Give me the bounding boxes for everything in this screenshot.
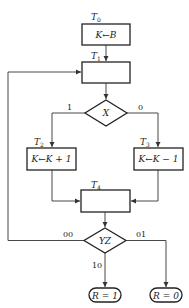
svg-text:T1: T1 [91, 51, 101, 62]
svg-text:T0: T0 [91, 12, 101, 23]
yz-branch-00: 00 [63, 230, 73, 239]
state-t2: T2 K←K + 1 [27, 137, 76, 170]
svg-text:R = 0: R = 0 [152, 291, 179, 301]
t3-action: K←K − 1 [138, 154, 179, 164]
x-branch-1: 1 [67, 103, 72, 112]
output-r0: R = 0 [150, 288, 182, 302]
decision-yz: YZ [84, 228, 126, 253]
svg-text:T3: T3 [140, 137, 150, 148]
yz-branch-01: 01 [136, 230, 146, 239]
decision-x: X [85, 100, 127, 126]
state-t3: T3 K←K − 1 [134, 137, 183, 170]
svg-text:X: X [102, 108, 110, 118]
state-t4: T4 [81, 180, 130, 212]
t0-action: K←B [95, 30, 117, 40]
state-t0: T0 K←B [82, 12, 130, 45]
svg-text:YZ: YZ [99, 236, 112, 246]
x-branch-0: 0 [138, 103, 143, 112]
yz-branch-10: 10 [92, 261, 102, 270]
svg-text:T2: T2 [34, 137, 44, 148]
svg-text:R = 1: R = 1 [91, 291, 118, 301]
asm-flowchart: T0 K←B T1 X 1 0 T2 K←K + 1 T3 K←K − 1 T4 [0, 0, 189, 308]
output-r1: R = 1 [89, 288, 121, 302]
t2-action: K←K + 1 [31, 154, 72, 164]
